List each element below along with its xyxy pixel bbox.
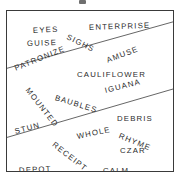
puzzle-word[interactable]: DEBRIS — [117, 115, 153, 123]
puzzle-word[interactable]: BAUBLES — [54, 94, 98, 114]
puzzle-word[interactable]: WHOLE — [76, 126, 111, 141]
puzzle-word[interactable]: SIGHS — [65, 33, 95, 53]
puzzle-word[interactable]: DEPOT — [19, 165, 52, 172]
puzzle-word[interactable]: AMUSE — [106, 45, 140, 64]
puzzle-border-box: EYESENTERPRISEGUISESIGHSPATRONIZEAMUSECA… — [6, 10, 174, 172]
puzzle-word[interactable]: ENTERPRISE — [89, 22, 151, 32]
puzzle-word[interactable]: GUISE — [27, 39, 57, 48]
puzzle-word[interactable]: CZAR — [120, 147, 146, 155]
puzzle-word[interactable]: RECEIPT — [51, 141, 89, 172]
puzzle-word[interactable]: STUN — [14, 121, 41, 135]
puzzle-canvas: EYESENTERPRISEGUISESIGHSPATRONIZEAMUSECA… — [0, 0, 180, 181]
puzzle-word[interactable]: EYES — [33, 26, 59, 35]
puzzle-word[interactable]: IGUANA — [104, 78, 142, 94]
cropped-glyph-fragment — [79, 0, 86, 4]
puzzle-word[interactable]: PATRONIZE — [14, 45, 67, 72]
puzzle-word[interactable]: CALM — [103, 167, 129, 172]
